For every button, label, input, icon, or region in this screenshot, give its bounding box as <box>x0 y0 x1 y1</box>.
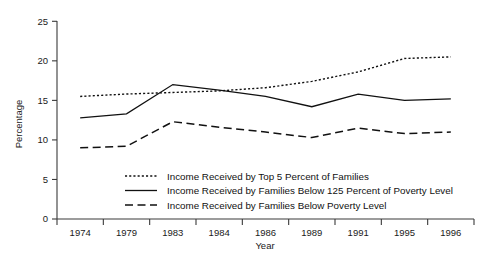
y-tick-label-5: 5 <box>43 174 48 185</box>
series-line-2 <box>80 122 451 148</box>
y-tick-label-10: 10 <box>37 134 48 145</box>
x-tick-label-1996: 1996 <box>440 227 461 238</box>
x-axis: 197419791983198419861989199119951996 Yea… <box>57 219 474 251</box>
chart-container: 0510152025 Percentage 197419791983198419… <box>0 0 496 266</box>
x-axis-title: Year <box>255 240 274 251</box>
y-axis: 0510152025 Percentage <box>13 16 57 225</box>
y-tick-label-0: 0 <box>43 213 48 224</box>
y-axis-ticks <box>52 21 57 219</box>
chart-legend: Income Received by Top 5 Percent of Fami… <box>125 171 453 211</box>
x-axis-tick-labels: 197419791983198419861989199119951996 <box>70 227 462 238</box>
y-tick-label-20: 20 <box>37 55 48 66</box>
series-line-0 <box>80 57 451 97</box>
x-tick-label-1974: 1974 <box>70 227 91 238</box>
y-tick-label-15: 15 <box>37 95 48 106</box>
line-chart-figure: 0510152025 Percentage 197419791983198419… <box>0 0 496 266</box>
data-series-group <box>80 57 451 148</box>
series-line-1 <box>80 85 451 118</box>
x-tick-label-1979: 1979 <box>116 227 137 238</box>
x-tick-label-1995: 1995 <box>394 227 415 238</box>
x-axis-ticks <box>57 219 474 225</box>
x-tick-label-1984: 1984 <box>209 227 230 238</box>
x-tick-label-1986: 1986 <box>255 227 276 238</box>
legend-label-2: Income Received by Families Below Povert… <box>167 200 386 211</box>
x-tick-label-1983: 1983 <box>162 227 183 238</box>
y-axis-tick-labels: 0510152025 <box>37 16 48 225</box>
y-tick-label-25: 25 <box>37 16 48 27</box>
x-tick-label-1989: 1989 <box>301 227 322 238</box>
legend-label-0: Income Received by Top 5 Percent of Fami… <box>167 171 369 182</box>
y-axis-title: Percentage <box>13 100 24 149</box>
x-tick-label-1991: 1991 <box>348 227 369 238</box>
legend-label-1: Income Received by Families Below 125 Pe… <box>167 185 453 196</box>
